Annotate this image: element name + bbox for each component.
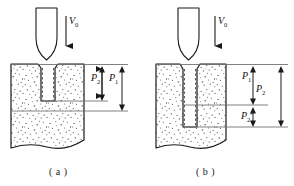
diagram-canvas: [0, 0, 294, 186]
projectile-b: [178, 8, 199, 60]
target-medium-b: [156, 64, 226, 148]
dimension-label-a-p1: P1: [109, 72, 118, 85]
projectile-a: [36, 8, 57, 60]
velocity-label-a: V0: [69, 15, 78, 28]
cavity-dashed-a: [43, 68, 54, 100]
panel-caption-b: ( b ): [196, 166, 215, 177]
dimension-label-b-p1: P1: [242, 70, 251, 83]
dimension-a-p1: [119, 66, 125, 111]
panel-b: [156, 8, 288, 148]
velocity-label-b: V0: [218, 15, 227, 28]
panel-caption-a: ( a ): [49, 166, 68, 177]
dimension-label-b-p2-prime: P2': [241, 110, 252, 123]
dimension-label-a-p2: P2: [91, 72, 100, 85]
penetration-diagram-figure: V0 P2 P1 V0 P1 P2 P2' ( a ) ( b ): [0, 0, 294, 186]
dimension-b-p2: [278, 66, 284, 127]
dimension-label-b-p2: P2: [256, 83, 265, 96]
cavity-dashed-b: [185, 69, 196, 126]
target-medium-a: [11, 64, 84, 148]
